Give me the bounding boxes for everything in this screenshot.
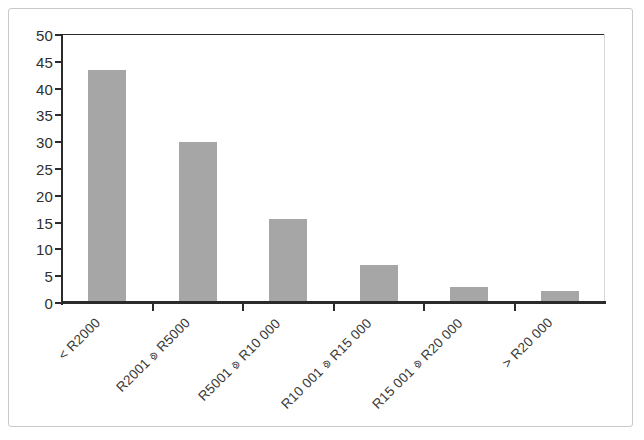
- y-axis-tick-label: 5: [3, 269, 53, 284]
- bar-chart-figure: 50454035302520151050 < R2000R2001 ⟄ R500…: [0, 0, 644, 440]
- y-axis-tick-label: 10: [3, 242, 53, 257]
- y-axis-tick-label: 30: [3, 135, 53, 150]
- bar: [269, 219, 307, 303]
- x-axis-tick-mark: [514, 304, 516, 311]
- y-axis-tick-label: 35: [3, 108, 53, 123]
- y-axis-tick-label: 0: [3, 296, 53, 311]
- x-axis-tick-mark: [423, 304, 425, 311]
- y-axis-tick-label: 25: [3, 162, 53, 177]
- bar: [179, 142, 217, 303]
- y-axis-tick-label: 20: [3, 189, 53, 204]
- y-axis-tick-label: 45: [3, 55, 53, 70]
- y-axis-tick-label: 15: [3, 216, 53, 231]
- plot-area: [62, 35, 605, 303]
- y-axis-line: [61, 34, 63, 305]
- y-axis-tick-labels: 50454035302520151050: [0, 0, 53, 440]
- x-axis-tick-mark: [333, 304, 335, 311]
- plot-right-edge: [604, 34, 605, 304]
- bar: [360, 265, 398, 303]
- y-axis-tick-label: 40: [3, 82, 53, 97]
- x-axis-tick-mark: [242, 304, 244, 311]
- y-axis-tick-label: 50: [3, 28, 53, 43]
- bar: [88, 70, 126, 303]
- x-axis-tick-mark: [152, 304, 154, 311]
